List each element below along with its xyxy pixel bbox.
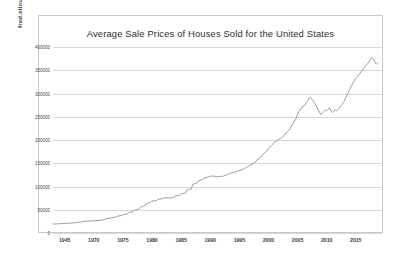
gridline xyxy=(53,233,382,234)
series-line-average-sale-price xyxy=(53,57,378,224)
x-tick-label: 1995 xyxy=(234,237,245,243)
x-tick-label: 1970 xyxy=(88,237,99,243)
x-tick-label: 1985 xyxy=(175,237,186,243)
x-tick-label: 2015 xyxy=(350,237,361,243)
y-tick-label: 200000 xyxy=(35,138,50,143)
source-credit-label: fred.stlouisfed.org, Source: US Census B… xyxy=(14,0,26,28)
y-tick-label: 400000 xyxy=(35,45,50,50)
y-tick-label: 150000 xyxy=(35,161,50,166)
x-tick-label: 1980 xyxy=(146,237,157,243)
x-tick-label: 1975 xyxy=(117,237,128,243)
plot-area: 0500001000001500002000002500003000003500… xyxy=(53,47,382,233)
y-tick-label: 100000 xyxy=(35,184,50,189)
x-tick-label: 1990 xyxy=(205,237,216,243)
x-tick-label: 2000 xyxy=(263,237,274,243)
x-tick-label: 2010 xyxy=(321,237,332,243)
chart-figure: fred.stlouisfed.org, Source: US Census B… xyxy=(0,0,410,276)
y-tick-label: 50000 xyxy=(37,207,50,212)
chart-title: Average Sale Prices of Houses Sold for t… xyxy=(38,28,383,39)
y-tick-label: 350000 xyxy=(35,68,50,73)
series-plot xyxy=(53,47,382,233)
y-tick-label: 300000 xyxy=(35,91,50,96)
y-tick-label: 250000 xyxy=(35,114,50,119)
x-tick-label: 1945 xyxy=(59,237,70,243)
y-tick-label: 0 xyxy=(47,231,50,236)
x-tick-label: 2005 xyxy=(292,237,303,243)
